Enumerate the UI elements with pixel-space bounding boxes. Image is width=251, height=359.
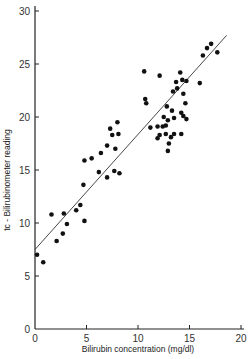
data-point (148, 125, 153, 130)
data-point (183, 101, 188, 106)
data-point (209, 42, 214, 47)
data-point (215, 50, 220, 55)
x-tick-label: 15 (184, 333, 196, 344)
data-point (41, 260, 46, 265)
y-tick-label: 30 (19, 6, 31, 17)
data-point (61, 231, 66, 236)
data-point (178, 70, 183, 75)
data-point (175, 86, 180, 91)
data-points (35, 42, 220, 265)
data-point (74, 208, 79, 213)
data-point (172, 116, 177, 121)
y-tick-label: 25 (19, 59, 31, 70)
regression-line (35, 35, 227, 249)
data-point (157, 133, 162, 138)
data-point (155, 124, 160, 129)
y-tick-label: 20 (19, 112, 31, 123)
data-point (172, 132, 177, 137)
data-point (184, 117, 189, 122)
x-axis-title: Bilirubin concentration (mg/dl) (82, 344, 195, 354)
scatter-chart: 05101520253005101520 Bilirubin concentra… (0, 0, 251, 359)
data-point (116, 132, 121, 137)
x-tick-label: 20 (235, 333, 247, 344)
data-point (181, 91, 186, 96)
y-tick-label: 15 (19, 165, 31, 176)
data-point (113, 147, 118, 152)
data-point (201, 53, 206, 58)
data-point (112, 169, 117, 174)
data-point (143, 97, 148, 102)
data-point (49, 212, 54, 217)
y-tick-label: 5 (24, 271, 30, 282)
data-point (165, 104, 170, 109)
data-point (170, 108, 175, 113)
data-point (161, 115, 166, 120)
data-point (164, 132, 169, 137)
data-point (54, 239, 59, 244)
data-point (105, 143, 110, 148)
data-point (167, 141, 172, 146)
data-point (142, 69, 147, 74)
data-point (205, 46, 210, 51)
data-point (166, 149, 171, 154)
data-point (171, 89, 176, 94)
data-point (65, 222, 70, 227)
data-point (166, 118, 171, 123)
data-point (82, 158, 87, 163)
data-point (78, 203, 83, 208)
data-point (174, 80, 179, 85)
data-point (35, 253, 40, 258)
data-point (164, 123, 169, 128)
data-point (89, 156, 94, 161)
regression-line-path (35, 35, 227, 249)
axes (35, 6, 244, 329)
data-point (157, 73, 162, 78)
data-point (97, 170, 102, 175)
data-point (105, 175, 110, 180)
data-point (184, 79, 189, 84)
data-point (110, 133, 115, 138)
x-tick-label: 10 (132, 333, 144, 344)
data-point (117, 171, 122, 176)
y-tick-label: 10 (19, 218, 31, 229)
data-point (179, 132, 184, 137)
data-point (180, 78, 185, 83)
data-point (115, 120, 120, 125)
data-point (108, 126, 113, 131)
ticks: 05101520253005101520 (19, 6, 247, 345)
data-point (62, 211, 67, 216)
data-point (198, 81, 203, 86)
y-tick-label: 0 (24, 324, 30, 335)
data-point (144, 101, 149, 106)
y-axis-title: tc - Bilirubinometer reading (2, 129, 12, 231)
data-point (99, 151, 104, 156)
data-point (81, 183, 86, 188)
x-tick-label: 5 (84, 333, 90, 344)
x-tick-label: 0 (32, 333, 38, 344)
data-point (82, 219, 87, 224)
